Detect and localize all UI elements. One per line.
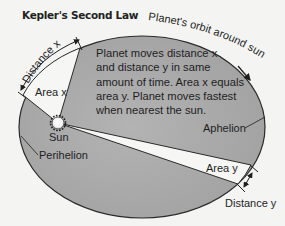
area-x-label: Area x xyxy=(35,86,67,98)
sun-label: Sun xyxy=(49,131,69,143)
description-line: when nearest the sun. xyxy=(96,103,256,117)
description-text: Planet moves distance x and distance y i… xyxy=(96,46,256,117)
diagram-title: Kepler's Second Law xyxy=(22,9,138,21)
distance-y-label: Distance y xyxy=(225,197,276,209)
description-line: area y. Planet moves fastest xyxy=(96,89,256,103)
description-line: Planet moves distance x xyxy=(96,46,256,60)
description-line: amount of time. Area x equals xyxy=(96,75,256,89)
aphelion-label: Aphelion xyxy=(203,122,246,134)
description-line: and distance y in same xyxy=(96,60,256,74)
area-y-label: Area y xyxy=(206,162,238,174)
perihelion-label: Perihelion xyxy=(39,149,88,161)
